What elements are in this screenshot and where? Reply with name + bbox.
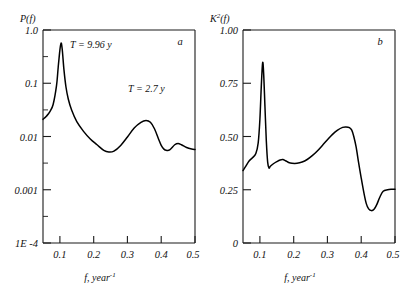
- panel-b-xtick-label-4: 0.4: [355, 249, 369, 260]
- panel-a-ytick-label-5: 1E -4: [15, 238, 39, 249]
- panel-b-xtick-label-1: 0.1: [253, 249, 266, 260]
- panel-a-ytick-label-1: 1.0: [25, 25, 39, 36]
- panel-b-ytick-label-2: 0.75: [220, 78, 238, 89]
- panel-a-ylabel: P(f): [19, 13, 36, 25]
- panel-b-xlabel-sup: -1: [310, 271, 316, 279]
- panel-a-xtick-label-2: 0.2: [87, 249, 101, 260]
- panel-b-ytick-label-5: 0: [233, 238, 239, 249]
- panel-b-ytick-label-1: 1.00: [220, 25, 239, 36]
- panel-a-xlabel-text: f, year: [84, 272, 110, 283]
- panel-b-plot: K2(f) 1.00 0.75 0.50 0.25 0 0.1 0.: [203, 0, 406, 298]
- panel-a-xtick-label-4: 0.4: [155, 249, 169, 260]
- panel-b-curve: [243, 62, 395, 210]
- spectral-analysis-figure: P(f) 1.0 0.1 0.01 0.001 1E -4: [0, 0, 406, 298]
- panel-b-xtick-label-5: 0.5: [386, 249, 399, 260]
- panel-a-curve: [43, 43, 195, 152]
- panel-a-xtick-label-1: 0.1: [53, 249, 66, 260]
- panel-a-letter: a: [177, 36, 182, 47]
- panel-a-xlabel-sup: -1: [110, 271, 116, 279]
- panel-a-ytick-label-3: 0.01: [20, 132, 38, 143]
- panel-a-xtick-label-5: 0.5: [186, 249, 199, 260]
- panel-a-annotation-2: T = 2.7 y: [128, 83, 165, 94]
- panel-b-ylabel-tail: (f): [220, 13, 230, 25]
- panel-b-xlabel: f, year-1: [284, 271, 315, 283]
- panel-a-plot: P(f) 1.0 0.1 0.01 0.001 1E -4: [0, 0, 203, 298]
- panel-b-xtick-label-3: 0.3: [321, 249, 334, 260]
- panel-a-xtick-label-3: 0.3: [121, 249, 134, 260]
- panel-b: K2(f) 1.00 0.75 0.50 0.25 0 0.1 0.: [203, 0, 406, 298]
- panel-b-xlabel-text: f, year: [284, 272, 310, 283]
- panel-b-xtick-label-2: 0.2: [287, 249, 301, 260]
- panel-b-letter: b: [377, 36, 382, 47]
- panel-a-ytick-label-4: 0.001: [14, 185, 38, 196]
- panel-a-annotation-1: T = 9.96 y: [70, 39, 112, 50]
- panel-b-ylabel: K2(f): [209, 12, 230, 25]
- panel-a-ytick-label-2: 0.1: [25, 78, 38, 89]
- panel-b-ytick-label-4: 0.25: [220, 185, 238, 196]
- panel-a-xlabel: f, year-1: [84, 271, 115, 283]
- panel-a: P(f) 1.0 0.1 0.01 0.001 1E -4: [0, 0, 203, 298]
- panel-b-ytick-label-3: 0.50: [220, 132, 239, 143]
